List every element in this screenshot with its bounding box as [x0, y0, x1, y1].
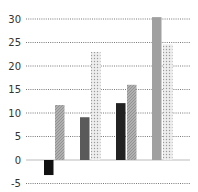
bar — [44, 160, 54, 175]
bar-chart: -5051015202530 — [0, 0, 198, 192]
bar — [152, 17, 162, 160]
y-tick-label: 25 — [8, 37, 21, 48]
bar — [127, 85, 137, 160]
bar — [163, 44, 173, 160]
y-tick-label: 5 — [15, 131, 21, 142]
y-tick-label: 20 — [8, 61, 21, 72]
bar — [116, 103, 126, 160]
y-tick-label: 15 — [8, 84, 21, 95]
bar — [80, 117, 90, 160]
bar — [55, 105, 65, 160]
y-tick-label: 10 — [8, 108, 21, 119]
y-axis-labels: -5051015202530 — [8, 14, 21, 190]
bar — [91, 52, 101, 160]
y-tick-label: 30 — [8, 14, 21, 25]
bars — [44, 17, 173, 175]
y-tick-label: -5 — [11, 178, 21, 189]
y-tick-label: 0 — [15, 155, 21, 166]
